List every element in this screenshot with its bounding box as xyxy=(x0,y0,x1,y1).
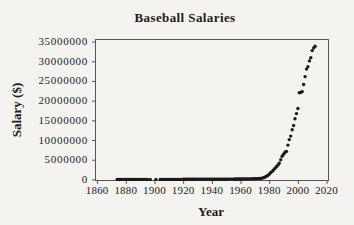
data-point xyxy=(286,143,289,146)
data-point xyxy=(149,178,152,181)
data-point xyxy=(295,112,298,115)
data-point xyxy=(146,178,149,181)
data-point xyxy=(293,117,296,120)
data-point xyxy=(279,158,282,161)
x-tick-label: 2020 xyxy=(310,184,344,197)
data-point xyxy=(289,134,292,137)
y-tick-label: 0 xyxy=(26,173,88,186)
data-point xyxy=(313,45,316,48)
y-tick-label: 25000000 xyxy=(26,74,88,87)
y-tick-label: 5000000 xyxy=(26,153,88,166)
data-point xyxy=(309,56,312,59)
data-point xyxy=(285,150,288,153)
data-point xyxy=(296,107,299,110)
data-point xyxy=(292,124,295,127)
data-point xyxy=(308,59,311,62)
data-point xyxy=(306,65,309,68)
plot-frame xyxy=(96,40,329,181)
baseball-salaries-chart: Baseball Salaries Salary ($) Year 050000… xyxy=(0,0,354,225)
y-tick-label: 30000000 xyxy=(26,55,88,68)
data-point xyxy=(154,178,157,181)
data-points xyxy=(116,45,317,182)
y-tick-label: 10000000 xyxy=(26,134,88,147)
y-tick-label: 15000000 xyxy=(26,114,88,127)
data-point xyxy=(301,90,304,93)
data-point xyxy=(288,138,291,141)
data-point xyxy=(291,128,294,131)
data-point xyxy=(302,83,305,86)
y-tick-label: 20000000 xyxy=(26,94,88,107)
y-tick-label: 35000000 xyxy=(26,35,88,48)
data-point xyxy=(303,75,306,78)
data-point xyxy=(278,162,281,165)
